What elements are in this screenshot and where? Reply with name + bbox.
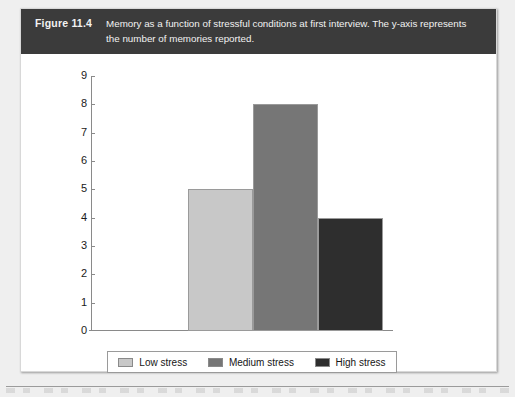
y-axis-tick-label: 2 <box>67 267 87 279</box>
legend-swatch <box>118 358 133 367</box>
bar-medium-stress <box>253 104 318 331</box>
legend-label: High stress <box>336 357 386 368</box>
legend-swatch <box>208 358 223 367</box>
y-axis-tick-label: 5 <box>67 182 87 194</box>
page-footer-smudge <box>6 388 509 393</box>
page-divider-rule <box>6 386 509 387</box>
legend-item: High stress <box>315 357 386 368</box>
legend-label: Medium stress <box>229 357 294 368</box>
figure-panel: Figure 11.4 Memory as a function of stre… <box>20 8 497 372</box>
chart-axes: 0123456789 <box>91 76 391 331</box>
figure-caption-text: Memory as a function of stressful condit… <box>106 17 482 46</box>
chart-plot-area: 0123456789 Low stressMedium stressHigh s… <box>21 54 496 373</box>
legend-swatch <box>315 358 330 367</box>
figure-caption-band: Figure 11.4 Memory as a function of stre… <box>21 9 496 54</box>
y-axis-tick-label: 8 <box>67 97 87 109</box>
bar-series <box>91 76 391 331</box>
y-axis-tick-label: 6 <box>67 154 87 166</box>
legend-item: Medium stress <box>208 357 294 368</box>
caption-row: Figure 11.4 Memory as a function of stre… <box>35 17 482 46</box>
legend-label: Low stress <box>139 357 187 368</box>
y-axis-tick-label: 1 <box>67 296 87 308</box>
y-axis-tick-label: 4 <box>67 211 87 223</box>
y-axis-tick-label: 0 <box>67 324 87 336</box>
bar-high-stress <box>318 218 383 331</box>
y-axis-tick-label: 7 <box>67 126 87 138</box>
y-axis-tick-label: 3 <box>67 239 87 251</box>
y-axis-tick: 0 <box>65 331 97 332</box>
legend-item: Low stress <box>118 357 187 368</box>
figure-number-label: Figure 11.4 <box>35 17 92 29</box>
y-axis-tick-label: 9 <box>67 69 87 81</box>
chart-legend: Low stressMedium stressHigh stress <box>107 351 397 373</box>
bar-low-stress <box>188 189 253 331</box>
